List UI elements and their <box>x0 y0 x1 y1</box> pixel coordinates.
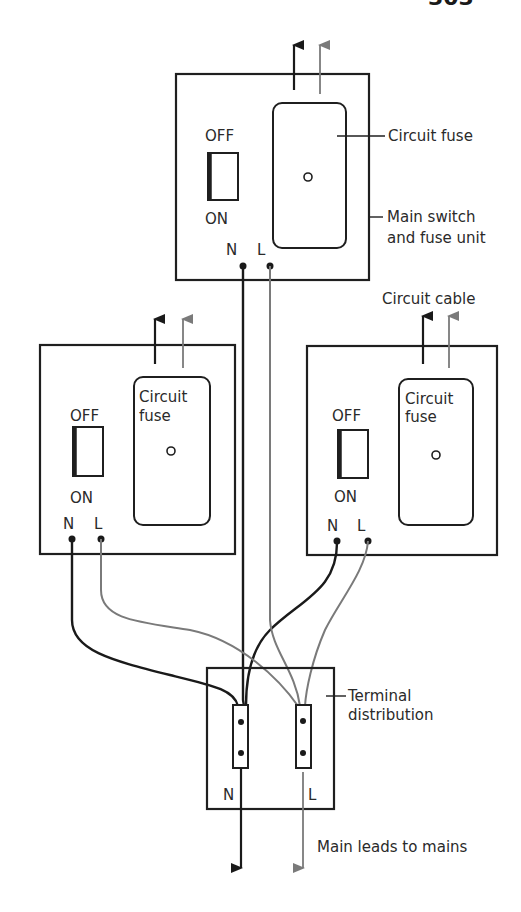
left-unit-neutral-wire <box>72 539 238 706</box>
main-unit-l-label: L <box>257 241 266 259</box>
terminal-l-label: L <box>308 786 317 804</box>
mains-leads: Main leads to mains <box>241 768 468 868</box>
left-switch-fuse-unit: OFF ON Circuit fuse N L <box>40 319 235 554</box>
right-unit-fuse-label-line2: fuse <box>405 408 437 426</box>
mains-callout: Main leads to mains <box>317 838 468 856</box>
live-terminal-screw-1-icon <box>300 718 306 724</box>
left-unit-live-wire <box>101 539 298 706</box>
main-unit-fuse-carrier[interactable] <box>273 103 346 248</box>
live-terminal-screw-2-icon <box>300 750 306 756</box>
main-unit-callout-line1: Main switch <box>387 208 475 226</box>
page-number: 303 <box>428 0 474 10</box>
right-unit-live-wire <box>305 541 368 706</box>
terminal-n-label: N <box>223 786 234 804</box>
left-unit-fuse-label-line1: Circuit <box>139 388 187 406</box>
terminal-callout-line1: Terminal <box>347 687 411 705</box>
right-unit-l-label: L <box>357 517 366 535</box>
left-unit-on-label: ON <box>70 489 93 507</box>
right-unit-neutral-wire <box>246 541 337 706</box>
circuit-cable-callout: Circuit cable <box>382 290 475 308</box>
main-unit-neutral-wire <box>243 266 244 706</box>
wiring-diagram: 303 OFF ON N L Circuit fuse Main switch … <box>0 0 521 912</box>
neutral-terminal-screw-1-icon <box>238 719 244 725</box>
main-unit-fuse-callout: Circuit fuse <box>388 127 473 145</box>
main-unit-live-wire <box>270 266 300 706</box>
main-switch-fuse-unit: OFF ON N L Circuit fuse Main switch and … <box>176 45 486 280</box>
right-unit-fuse-label-line1: Circuit <box>405 390 453 408</box>
wiring <box>72 266 368 706</box>
terminal-callout-line2: distribution <box>348 706 433 724</box>
right-unit-n-label: N <box>327 517 338 535</box>
right-switch-fuse-unit: Circuit cable OFF ON Circuit fuse N L <box>307 290 497 555</box>
right-unit-on-label: ON <box>334 488 357 506</box>
neutral-terminal-screw-2-icon <box>238 750 244 756</box>
right-unit-off-label: OFF <box>332 407 361 425</box>
live-terminal-strip <box>296 705 311 768</box>
left-unit-off-label: OFF <box>70 407 99 425</box>
right-unit-fuse-screw-icon <box>432 451 440 459</box>
main-unit-on-label: ON <box>205 210 228 228</box>
left-unit-n-label: N <box>63 515 74 533</box>
main-unit-off-label: OFF <box>205 127 234 145</box>
right-unit-rocker-switch-icon[interactable] <box>338 430 368 478</box>
main-unit-n-label: N <box>226 241 237 259</box>
left-unit-fuse-screw-icon <box>167 447 175 455</box>
main-unit-rocker-switch-icon[interactable] <box>208 153 238 200</box>
left-unit-fuse-label-line2: fuse <box>139 407 171 425</box>
main-unit-fuse-screw-icon <box>304 173 312 181</box>
neutral-terminal-strip <box>233 705 248 768</box>
main-unit-callout-line2: and fuse unit <box>387 229 486 247</box>
left-unit-l-label: L <box>94 515 103 533</box>
left-unit-rocker-switch-icon[interactable] <box>73 427 103 476</box>
